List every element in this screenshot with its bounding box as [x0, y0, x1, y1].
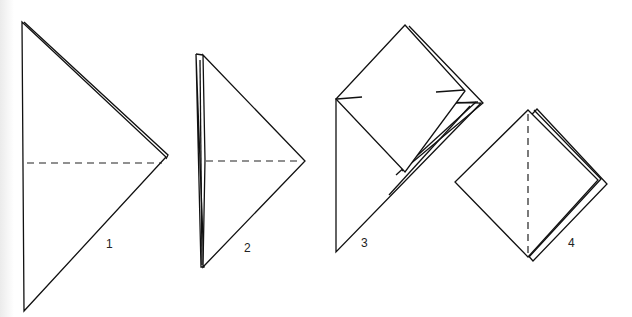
step-2-figure [196, 54, 305, 267]
step-4-diamond [455, 110, 598, 257]
origami-diagram [0, 0, 632, 317]
step-4-figure [455, 109, 607, 261]
step-1-triangle [22, 22, 166, 311]
step-4-number: 4 [568, 236, 575, 250]
step-3-figure [336, 25, 483, 252]
step-2-layer-top [196, 54, 203, 55]
step-2-number: 2 [244, 241, 251, 255]
step-1-number: 1 [106, 237, 113, 251]
step-1-figure [22, 22, 168, 311]
step-3-number: 3 [361, 236, 368, 250]
